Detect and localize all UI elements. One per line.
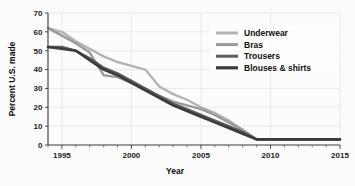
x-tick-label: 2010 (262, 151, 280, 160)
y-tick-label: 60 (34, 28, 43, 37)
chart-container: 010203040506070 19952000200520102015 Yea… (0, 0, 355, 186)
x-axis-minor-ticks (48, 145, 326, 148)
legend-label-underwear: Underwear (244, 28, 289, 38)
y-tick-label: 20 (34, 103, 43, 112)
legend-label-trousers: Trousers (244, 51, 280, 61)
x-tick-label: 2005 (192, 151, 210, 160)
chart-legend: UnderwearBrasTrousersBlouses & shirts (209, 24, 339, 73)
x-axis-title: Year (166, 166, 185, 176)
x-tick-label: 2000 (123, 151, 141, 160)
y-axis-title: Percent U.S. made (7, 41, 17, 116)
y-tick-label: 0 (38, 141, 43, 150)
x-tick-label: 2015 (331, 151, 349, 160)
x-axis-ticks: 19952000200520102015 (53, 145, 349, 160)
legend-label-bras: Bras (244, 40, 263, 50)
y-axis-ticks: 010203040506070 (34, 9, 48, 150)
x-tick-label: 1995 (53, 151, 71, 160)
y-tick-label: 10 (34, 122, 43, 131)
legend-label-blouses-shirts: Blouses & shirts (244, 63, 311, 73)
line-chart: 010203040506070 19952000200520102015 Yea… (0, 0, 355, 186)
y-tick-label: 40 (34, 65, 43, 74)
y-tick-label: 70 (34, 9, 43, 18)
y-tick-label: 50 (34, 47, 43, 56)
y-tick-label: 30 (34, 84, 43, 93)
